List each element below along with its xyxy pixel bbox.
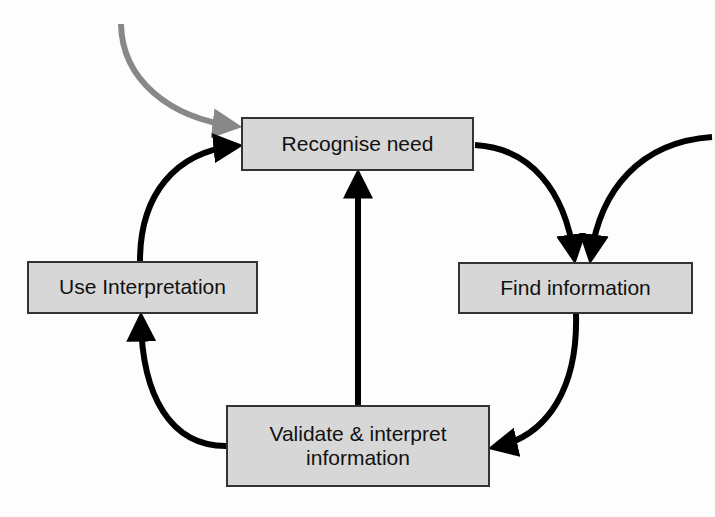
node-validate-interpret: Validate & interpret information: [226, 405, 490, 487]
entry-arrow-right: [591, 137, 712, 256]
node-label-line2: information: [306, 446, 410, 470]
arrow-use-to-recognise: [140, 146, 235, 261]
node-recognise-need: Recognise need: [241, 117, 474, 171]
node-label-line1: Validate & interpret: [269, 422, 446, 446]
arrow-find-to-validate: [496, 314, 576, 447]
arrow-validate-to-use: [141, 320, 226, 446]
node-find-information: Find information: [458, 262, 693, 314]
node-label: Use Interpretation: [59, 275, 226, 299]
arrow-recognise-to-find: [475, 145, 574, 256]
node-use-interpretation: Use Interpretation: [27, 261, 258, 314]
node-label: Recognise need: [282, 132, 434, 156]
diagram-canvas: Recognise need Find information Use Inte…: [0, 0, 715, 517]
node-label: Find information: [500, 276, 651, 300]
entry-arrow-gray: [121, 24, 234, 126]
